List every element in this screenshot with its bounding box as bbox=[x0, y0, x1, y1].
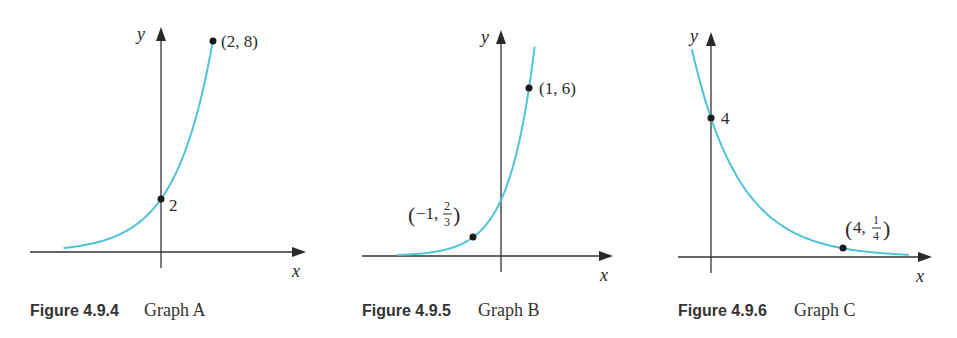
caption-title: Graph A bbox=[144, 300, 206, 320]
point-label-fraction: ( −1, 2 3 ) bbox=[408, 199, 460, 229]
caption-number: Figure 4.9.6 bbox=[678, 302, 767, 319]
paren-close: ) bbox=[453, 202, 460, 227]
point-label-fraction: ( 4, 1 4 ) bbox=[845, 213, 890, 243]
y-axis-arrow-icon bbox=[706, 32, 716, 46]
paren-open: ( bbox=[845, 216, 852, 241]
x-axis-label: x bbox=[915, 266, 924, 286]
x-axis-arrow-icon bbox=[918, 252, 932, 262]
x-axis-label: x bbox=[599, 265, 608, 285]
curve-graph-b bbox=[397, 47, 534, 255]
y-axis-label: y bbox=[688, 26, 698, 46]
caption-title: Graph C bbox=[794, 300, 856, 320]
caption-number: Figure 4.9.5 bbox=[362, 302, 451, 319]
paren-open: ( bbox=[408, 202, 415, 227]
point-label: 4 bbox=[721, 109, 730, 128]
point-4-1-4 bbox=[840, 245, 847, 252]
paren-close: ) bbox=[883, 216, 890, 241]
x-axis-label: x bbox=[291, 261, 300, 281]
fraction-numerator: 1 bbox=[873, 213, 879, 227]
caption-title: Graph B bbox=[478, 300, 540, 320]
x-axis-arrow-icon bbox=[292, 247, 306, 257]
graph-c: x y 4 ( 4, 1 4 ) Figure 4.9.6 Graph C bbox=[678, 26, 932, 320]
point-label-prefix: 4, bbox=[853, 218, 866, 237]
point-label-prefix: −1, bbox=[416, 204, 438, 223]
point-label: (2, 8) bbox=[221, 32, 258, 51]
curve-graph-a bbox=[64, 40, 214, 248]
point-y-intercept bbox=[158, 196, 165, 203]
graph-b: x y ( −1, 2 3 ) (1, 6) Figure 4.9.5 Grap… bbox=[362, 27, 613, 320]
point-2-8 bbox=[210, 38, 217, 45]
graph-a: x y 2 (2, 8) Figure 4.9.4 Graph A bbox=[30, 24, 306, 320]
y-axis-arrow-icon bbox=[156, 27, 166, 41]
point-y-intercept bbox=[708, 115, 715, 122]
y-axis-label: y bbox=[479, 27, 489, 47]
caption-number: Figure 4.9.4 bbox=[30, 302, 119, 319]
fraction-denominator: 4 bbox=[873, 229, 879, 243]
x-axis-arrow-icon bbox=[599, 251, 613, 261]
figures-canvas: x y 2 (2, 8) Figure 4.9.4 Graph A x y ( … bbox=[0, 0, 957, 338]
y-axis-label: y bbox=[135, 24, 145, 44]
fraction-numerator: 2 bbox=[444, 199, 450, 213]
point-label: 2 bbox=[169, 196, 178, 215]
point-neg1-2-3 bbox=[470, 234, 477, 241]
y-axis-arrow-icon bbox=[496, 30, 506, 44]
fraction-denominator: 3 bbox=[444, 215, 450, 229]
point-1-6 bbox=[526, 85, 533, 92]
point-label: (1, 6) bbox=[539, 79, 576, 98]
